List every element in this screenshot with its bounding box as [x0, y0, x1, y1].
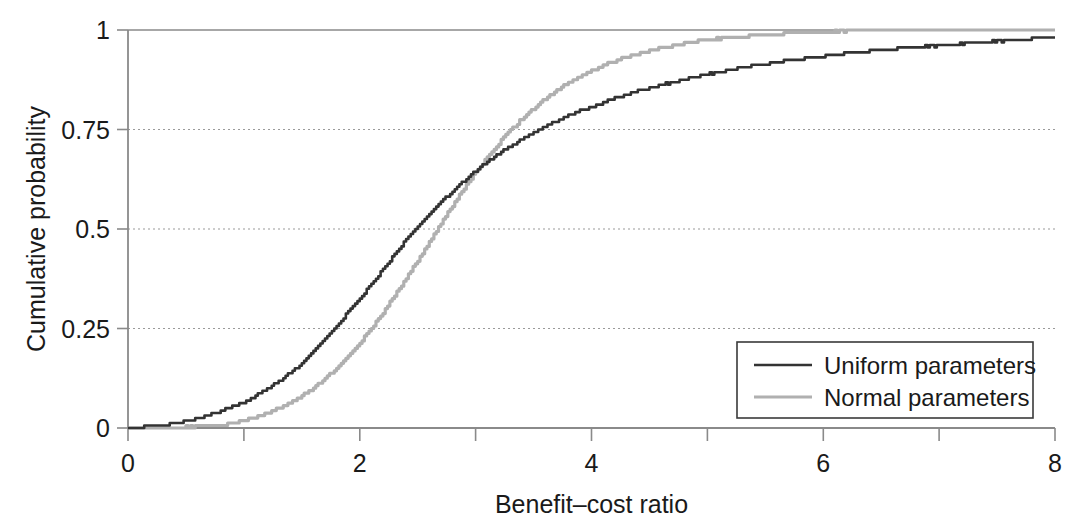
chart-canvas: 0 0.25 0.5 0.75 1 0 2 4 6 8 Benefit–cost… [0, 0, 1091, 524]
y-tick-label-025: 0.25 [61, 315, 110, 343]
x-tick-label-0: 0 [121, 449, 135, 477]
y-tick-label-1: 1 [96, 16, 110, 44]
legend-label-normal: Normal parameters [824, 384, 1029, 411]
x-tick-label-4: 4 [585, 449, 599, 477]
y-tick-label-075: 0.75 [61, 116, 110, 144]
chart-background [0, 0, 1091, 524]
x-tick-label-2: 2 [353, 449, 367, 477]
cdf-chart-figure: 0 0.25 0.5 0.75 1 0 2 4 6 8 Benefit–cost… [0, 0, 1091, 524]
legend-label-uniform: Uniform parameters [824, 352, 1036, 379]
x-tick-label-6: 6 [816, 449, 830, 477]
x-tick-label-8: 8 [1048, 449, 1062, 477]
y-axis-title: Cumulative probability [22, 106, 50, 352]
legend: Uniform parameters Normal parameters [737, 342, 1036, 418]
y-tick-label-05: 0.5 [75, 215, 110, 243]
y-tick-label-0: 0 [96, 414, 110, 442]
x-axis-title: Benefit–cost ratio [495, 490, 688, 518]
